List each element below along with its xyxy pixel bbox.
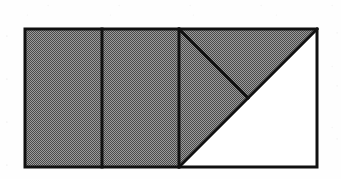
shaded-rectangle-figure bbox=[0, 0, 341, 179]
figure-page: A rectangle divided into three equal ver… bbox=[0, 0, 341, 179]
region-column-2 bbox=[102, 29, 179, 167]
region-column-1 bbox=[25, 29, 102, 167]
